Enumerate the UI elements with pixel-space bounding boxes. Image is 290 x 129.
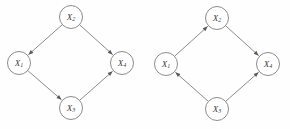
edge-line	[28, 25, 62, 55]
edge-line	[28, 71, 61, 100]
node-L4[interactable]: X4	[111, 52, 134, 75]
right-graph: X2X1X4X3	[155, 7, 280, 121]
edge-R3-R4	[226, 72, 259, 101]
node-R1[interactable]: X1	[155, 53, 178, 76]
edge-L2-L4	[80, 25, 113, 55]
node-L1[interactable]: X1	[8, 52, 31, 75]
figure-canvas: X2X1X4X3X2X1X4X3	[0, 0, 290, 129]
edge-line	[175, 72, 208, 101]
left-graph: X2X1X4X3	[8, 6, 134, 120]
edge-line	[80, 71, 113, 100]
edge-line	[226, 72, 259, 101]
edge-R1-R2	[175, 26, 208, 56]
edge-R2-R4	[226, 26, 259, 56]
node-R3[interactable]: X3	[206, 98, 229, 121]
node-R2[interactable]: X2	[206, 7, 229, 30]
edge-line	[226, 26, 259, 56]
edge-line	[175, 26, 208, 56]
node-L2[interactable]: X2	[60, 6, 83, 29]
dag-figure: X2X1X4X3X2X1X4X3	[0, 0, 290, 129]
edge-R3-R1	[175, 72, 208, 101]
node-L3[interactable]: X3	[60, 97, 83, 120]
edge-L2-L1	[28, 25, 62, 55]
edge-L1-L3	[28, 71, 61, 100]
node-R4[interactable]: X4	[257, 53, 280, 76]
edge-L3-L4	[80, 71, 113, 100]
edge-line	[80, 25, 113, 55]
